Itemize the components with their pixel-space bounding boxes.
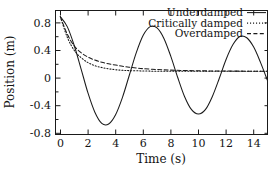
x-tick-label: 2 [85, 137, 92, 150]
x-tick-label: 12 [219, 137, 233, 150]
damped-oscillation-plot: 0 2 4 6 8 10 12 14 0.8 0.4 0 -0.4 -0.8 T… [0, 0, 276, 174]
x-tick-label: 6 [140, 137, 147, 150]
x-tick-label: 4 [112, 137, 119, 150]
y-tick-label: -0.8 [30, 127, 51, 140]
y-tick-label: -0.4 [30, 99, 51, 112]
x-tick-label: 10 [192, 137, 206, 150]
x-axis-tick-labels: 0 2 4 6 8 10 12 14 [57, 137, 261, 150]
y-axis-title: Position (m) [3, 36, 17, 109]
x-axis-title: Time (s) [136, 152, 186, 166]
legend-label-overdamped: Overdamped [175, 27, 244, 39]
y-axis-ticks [56, 23, 268, 133]
y-axis-tick-labels: 0.8 0.4 0 -0.4 -0.8 [30, 17, 51, 140]
y-tick-label: 0.8 [34, 17, 52, 30]
x-tick-label: 8 [167, 137, 174, 150]
x-tick-label: 0 [57, 137, 64, 150]
y-tick-label: 0 [44, 72, 51, 85]
chart-figure: 0 2 4 6 8 10 12 14 0.8 0.4 0 -0.4 -0.8 T… [0, 0, 276, 174]
x-tick-label: 14 [247, 137, 261, 150]
y-tick-label: 0.4 [34, 44, 52, 57]
